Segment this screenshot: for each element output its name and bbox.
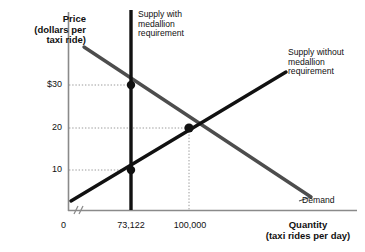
supply-without-medallion-label: Supply withoutmedallionrequirement [288, 48, 365, 77]
supply-without-medallion-label-line2: medallion [288, 57, 325, 67]
supply-demand-chart: Price(dollars pertaxi ride) Quantity(tax… [0, 0, 365, 252]
supply-with-medallion-label-line1: Supply with [138, 9, 182, 19]
origin-label: 0 [40, 220, 66, 230]
x-tick-label-73122: 73,122 [100, 220, 162, 230]
y-axis-title: Price(dollars pertaxi ride) [0, 14, 86, 46]
y-tick-label-20: 20 [28, 122, 62, 132]
y-tick-label-10: 10 [28, 164, 62, 174]
y-axis-title-line3: taxi ride) [46, 34, 86, 45]
x-axis-title: Quantity(taxi rides per day) [252, 220, 364, 241]
demand-label: Demand [302, 196, 360, 206]
x-tick-label-100000: 100,000 [155, 220, 225, 230]
supply-without-medallion-label-line3: requirement [288, 66, 334, 76]
supply-with-medallion-label: Supply withmedallionrequirement [138, 10, 234, 39]
marker-medallion-equilibrium [127, 81, 135, 89]
supply-with-medallion-label-line3: requirement [138, 28, 184, 38]
marker-supply-cost-point [127, 166, 135, 174]
x-axis-title-line2: (taxi rides per day) [266, 230, 350, 241]
x-axis-title-line1: Quantity [289, 219, 328, 230]
supply-with-medallion-label-line2: medallion [138, 19, 175, 29]
marker-free-market-equilibrium [184, 123, 193, 132]
y-axis-title-line1: Price [63, 13, 86, 24]
supply-without-medallion-label-line1: Supply without [288, 47, 344, 57]
supply-without-medallion-curve [71, 72, 286, 201]
y-axis-title-line2: (dollars per [34, 24, 86, 35]
y-tick-label-30: $30 [28, 79, 62, 89]
